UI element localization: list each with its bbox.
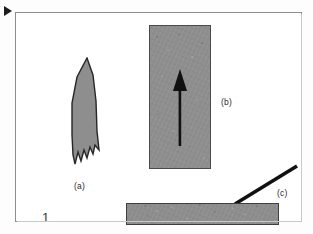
figure-frame: (a) (b) (c) 1 <box>15 12 302 222</box>
up-arrow-icon <box>171 69 189 146</box>
shape-b-textured-rectangle <box>149 25 211 169</box>
figure-page: (a) (b) (c) 1 <box>0 0 313 234</box>
label-a: (a) <box>74 181 85 191</box>
shape-c-diagonal-line <box>230 161 302 209</box>
play-triangle-icon <box>4 6 12 16</box>
texture-grain <box>127 204 278 224</box>
figure-number: 1 <box>42 210 49 225</box>
horizontal-bar <box>126 203 279 225</box>
texture-speckles <box>127 204 278 224</box>
shape-a-pointed-jagged-blade <box>68 57 112 179</box>
label-b: (b) <box>221 97 232 107</box>
label-c: (c) <box>277 188 288 198</box>
